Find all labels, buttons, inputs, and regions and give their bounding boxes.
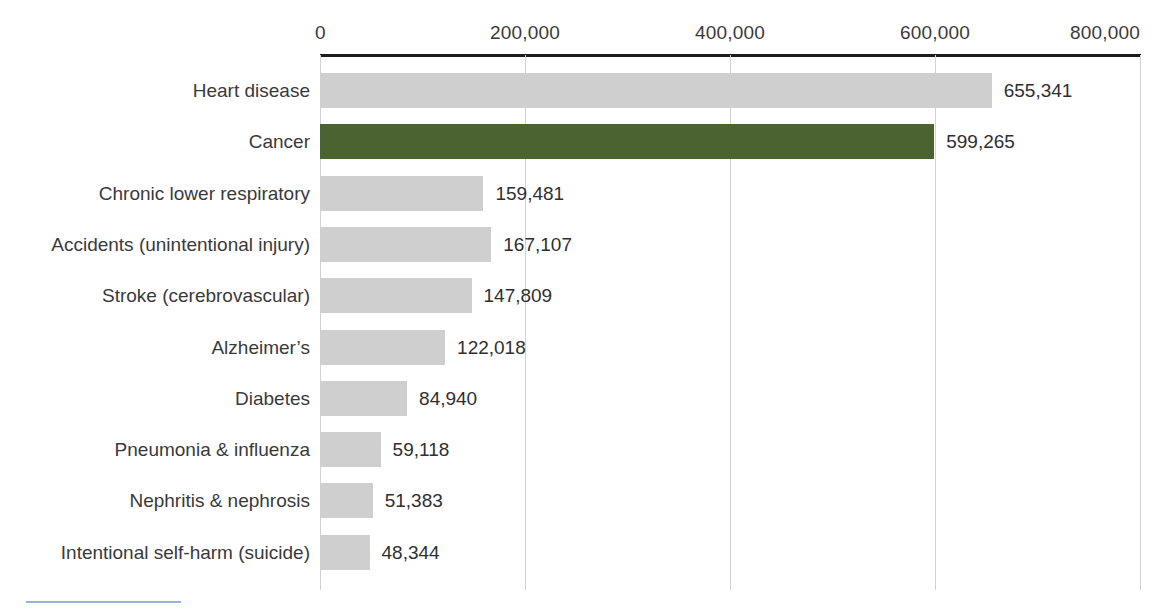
bar[interactable] [320,176,483,211]
bar-highlight[interactable] [320,124,934,159]
category-label: Diabetes [0,381,310,416]
bar-value-label: 84,940 [419,381,477,416]
bar-value-label: 655,341 [1004,73,1073,108]
bar-value-label: 48,344 [382,535,440,570]
bar[interactable] [320,381,407,416]
bar-value-label: 122,018 [457,330,526,365]
category-label: Alzheimer’s [0,330,310,365]
bar-row[interactable]: Cancer599,265 [0,124,1166,159]
bar-row[interactable]: Stroke (cerebrovascular)147,809 [0,278,1166,313]
bar-row[interactable]: Pneumonia & influenza59,118 [0,432,1166,467]
bar[interactable] [320,330,445,365]
category-label: Intentional self-harm (suicide) [0,535,310,570]
category-label: Nephritis & nephrosis [0,483,310,518]
bottom-rule [26,601,181,603]
bar-row[interactable]: Intentional self-harm (suicide)48,344 [0,535,1166,570]
bar-value-label: 167,107 [503,227,572,262]
bar-row[interactable]: Nephritis & nephrosis51,383 [0,483,1166,518]
bar[interactable] [320,535,370,570]
bar[interactable] [320,483,373,518]
bar-row[interactable]: Accidents (unintentional injury)167,107 [0,227,1166,262]
bar-row[interactable]: Chronic lower respiratory159,481 [0,176,1166,211]
bar-chart: 0200,000400,000600,000800,000 Heart dise… [0,0,1166,610]
bar-rows: Heart disease655,341Cancer599,265Chronic… [0,0,1166,610]
category-label: Heart disease [0,73,310,108]
bar-value-label: 59,118 [393,432,450,467]
bar-row[interactable]: Alzheimer’s122,018 [0,330,1166,365]
category-label: Cancer [0,124,310,159]
bar[interactable] [320,227,491,262]
bar-value-label: 147,809 [484,278,553,313]
category-label: Chronic lower respiratory [0,176,310,211]
bar[interactable] [320,73,992,108]
bar-row[interactable]: Diabetes84,940 [0,381,1166,416]
bar-value-label: 159,481 [495,176,564,211]
bar[interactable] [320,432,381,467]
category-label: Accidents (unintentional injury) [0,227,310,262]
bar[interactable] [320,278,472,313]
bar-value-label: 51,383 [385,483,443,518]
bar-value-label: 599,265 [946,124,1015,159]
category-label: Pneumonia & influenza [0,432,310,467]
bar-row[interactable]: Heart disease655,341 [0,73,1166,108]
category-label: Stroke (cerebrovascular) [0,278,310,313]
